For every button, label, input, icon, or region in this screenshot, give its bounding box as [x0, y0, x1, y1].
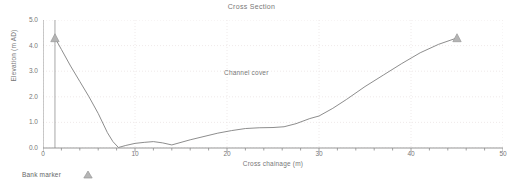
y-tick-label: 3.0	[12, 68, 38, 75]
y-tick-label: 5.0	[12, 17, 38, 24]
chart-legend: Bank marker	[22, 170, 93, 179]
x-tick-label: 0	[31, 151, 55, 158]
y-tick-label: 2.0	[12, 94, 38, 101]
y-tick-label: 1.0	[12, 119, 38, 126]
x-tick-label: 50	[491, 151, 511, 158]
y-tick-label: 4.0	[12, 43, 38, 50]
triangle-up-icon	[83, 170, 93, 179]
x-tick-label: 40	[399, 151, 423, 158]
x-tick-label: 20	[215, 151, 239, 158]
x-tick-label: 30	[307, 151, 331, 158]
x-tick-label: 10	[123, 151, 147, 158]
axes-svg	[43, 20, 503, 180]
plot-area	[43, 20, 503, 148]
legend-label-bank-marker: Bank marker	[22, 171, 61, 178]
y-axis-label: Elevation (m AD)	[10, 16, 17, 96]
chart-title: Cross Section	[0, 3, 503, 10]
annotation-channel-cover: Channel cover	[224, 69, 269, 76]
